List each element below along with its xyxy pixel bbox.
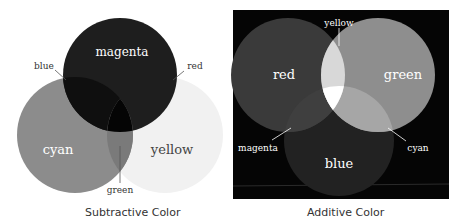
magenta-label: magenta bbox=[238, 143, 278, 153]
green-label: green bbox=[107, 185, 134, 195]
blue-label: blue bbox=[325, 156, 354, 171]
magenta-label: magenta bbox=[95, 45, 148, 59]
red-label: red bbox=[187, 61, 203, 71]
green-label: green bbox=[384, 67, 423, 82]
yellow-label: yellow bbox=[150, 142, 193, 157]
cyan-label: cyan bbox=[407, 143, 428, 153]
cyan-label: cyan bbox=[43, 142, 74, 157]
additive-caption: Additive Color bbox=[307, 206, 384, 219]
subtractive-diagram: magenta cyan yellow blue red green bbox=[17, 18, 223, 195]
red-label: red bbox=[273, 67, 295, 82]
yellow-label: yellow bbox=[323, 18, 354, 28]
blue-label: blue bbox=[34, 61, 54, 71]
color-models-diagram: magenta cyan yellow blue red green red g… bbox=[0, 0, 463, 222]
subtractive-caption: Subtractive Color bbox=[85, 206, 180, 219]
additive-diagram: red green blue yellow magenta cyan bbox=[231, 10, 449, 199]
